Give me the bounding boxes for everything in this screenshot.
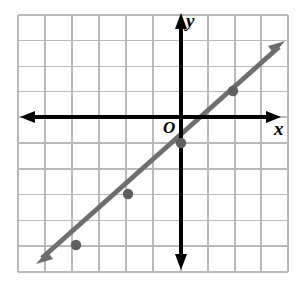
coordinate-plane-figure: y x O <box>0 0 297 281</box>
x-axis-label: x <box>274 119 284 138</box>
plotted-point <box>176 138 186 148</box>
y-axis-label: y <box>186 11 194 30</box>
plotted-point <box>123 189 133 199</box>
origin-label: O <box>163 119 175 136</box>
plotted-point <box>228 86 238 96</box>
plotted-point <box>71 240 81 250</box>
graph-canvas <box>0 0 297 281</box>
